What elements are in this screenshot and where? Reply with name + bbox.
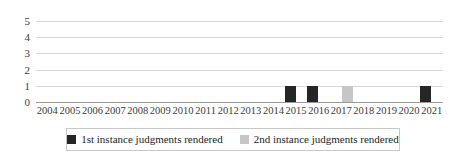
x-axis-tick-label: 2016 <box>308 104 329 117</box>
bars-layer <box>36 21 443 102</box>
x-axis-tick-label: 2013 <box>240 104 261 117</box>
x-axis-tick-label: 2007 <box>105 104 126 117</box>
x-axis-tick-label: 2018 <box>353 104 374 117</box>
y-axis-tick-label: 1 <box>25 80 31 91</box>
bar <box>342 86 353 102</box>
bar-chart: 012345 200420052006200720082009201020112… <box>0 0 464 156</box>
y-axis-tick-label: 0 <box>25 97 31 108</box>
x-axis-tick-label: 2021 <box>421 104 442 117</box>
x-axis-tick-label: 2009 <box>150 104 171 117</box>
chart-legend: 1st instance judgments rendered2nd insta… <box>66 128 400 151</box>
x-axis-tick-label: 2014 <box>263 104 284 117</box>
x-axis-tick-label: 2005 <box>59 104 80 117</box>
x-axis-tick-label: 2004 <box>37 104 58 117</box>
x-axis-tick-label: 2008 <box>127 104 148 117</box>
x-axis-tick-label: 2019 <box>376 104 397 117</box>
y-axis-tick-label: 3 <box>25 48 31 59</box>
x-axis-tick-label: 2006 <box>82 104 103 117</box>
y-axis-tick-label: 5 <box>25 16 31 27</box>
legend-label: 1st instance judgments rendered <box>81 134 222 145</box>
bar <box>420 86 431 102</box>
x-axis-tick-label: 2010 <box>172 104 193 117</box>
legend-swatch-icon <box>240 135 249 144</box>
y-axis-tick-label: 2 <box>25 64 31 75</box>
y-axis-tick-label: 4 <box>25 32 31 43</box>
x-axis-tick-label: 2012 <box>218 104 239 117</box>
x-axis: 2004200520062007200820092010201120122013… <box>36 104 443 118</box>
legend-entry[interactable]: 1st instance judgments rendered <box>67 134 222 145</box>
x-axis-tick-label: 2020 <box>399 104 420 117</box>
x-axis-tick-label: 2011 <box>195 104 216 117</box>
bar <box>285 86 296 102</box>
x-axis-tick-label: 2017 <box>331 104 352 117</box>
x-axis-tick-label: 2015 <box>286 104 307 117</box>
x-axis-line <box>36 102 443 103</box>
legend-entry[interactable]: 2nd instance judgments rendered <box>240 134 399 145</box>
bar <box>307 86 318 102</box>
legend-swatch-icon <box>67 135 76 144</box>
y-axis: 012345 <box>0 21 34 102</box>
legend-label: 2nd instance judgments rendered <box>254 134 399 145</box>
